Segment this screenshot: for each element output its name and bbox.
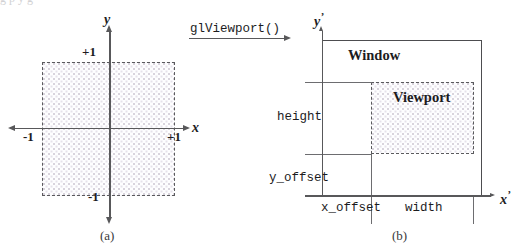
glviewport-label: glViewport() (190, 22, 280, 36)
viewport-label: Viewport (393, 89, 450, 106)
panel-a-x-axis-label: x (192, 120, 199, 136)
panel-a-x-axis (14, 128, 184, 130)
width-label: width (405, 201, 443, 215)
panel-b-y-axis-prime: ’ (320, 10, 324, 22)
transform-arrow-head (284, 35, 291, 41)
y-offset-label: y_offset (269, 171, 329, 185)
panel-a-tick-y-negative: -1 (88, 189, 99, 205)
panel-a-x-axis-arrow-right (183, 125, 190, 131)
panel-a-y-axis-label: y (104, 12, 110, 28)
panel-a-tick-x-negative: -1 (23, 129, 34, 145)
panel-b-x-axis (305, 195, 491, 196)
guide-line-viewport-top (305, 82, 372, 83)
guide-line-viewport-bottom (305, 154, 372, 155)
glviewport-figure: g p y g x y +1 -1 -1 +1 (a) glViewport() (0, 0, 529, 251)
height-label: height (277, 110, 322, 124)
panel-a-x-axis-arrow-left (8, 125, 15, 131)
panel-b-x-axis-label: x’ (500, 188, 511, 208)
panel-b-x-axis-letter: x (500, 192, 507, 207)
panel-b-y-axis-label: y’ (314, 10, 324, 30)
x-offset-label: x_offset (321, 201, 381, 215)
panel-b-caption: (b) (392, 228, 407, 244)
panel-a-y-axis-arrow-down (106, 217, 112, 224)
window-label: Window (348, 47, 400, 64)
transform-arrow-shaft (189, 38, 285, 40)
clipped-text: g p y g (0, 0, 33, 5)
panel-a-tick-y-positive: +1 (82, 44, 96, 60)
guide-line-viewport-right (473, 196, 474, 224)
panel-a-y-axis (109, 31, 111, 218)
panel-a-caption: (a) (100, 228, 114, 244)
panel-a-tick-x-positive: +1 (167, 129, 181, 145)
clipped-text-bleed: g p y g (0, 0, 529, 6)
panel-b-x-axis-arrow (490, 193, 495, 197)
panel-b-x-axis-prime: ’ (507, 188, 511, 200)
